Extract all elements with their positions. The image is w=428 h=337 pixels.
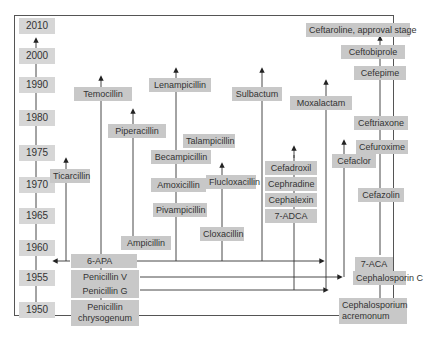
cefepime-box: Cefepime (354, 66, 406, 80)
penicillin-v-box: Penicillin V (71, 270, 139, 284)
penicillin-chrysogenum-box: Penicillin chrysogenum (71, 300, 139, 326)
cephradine-box: Cephradine (265, 177, 317, 191)
ceftaroline-box: Ceftaroline, approval stage (306, 23, 410, 37)
piperacillin-box: Piperacillin (108, 124, 166, 138)
year-1965: 1965 (19, 208, 55, 224)
year-1975: 1975 (19, 145, 55, 161)
six-apa-box: 6-APA (71, 254, 137, 268)
year-1990: 1990 (19, 77, 55, 93)
ceftriaxone-box: Ceftriaxone (354, 116, 408, 130)
cefuroxime-box: Cefuroxime (356, 140, 408, 154)
amoxicillin-box: Amoxicillin (151, 178, 206, 192)
year-1955: 1955 (19, 270, 55, 286)
talampicillin-box: Talampicillin (183, 134, 235, 148)
moxalactam-box: Moxalactam (290, 96, 352, 110)
year-1980: 1980 (19, 110, 55, 126)
year-2000: 2000 (19, 48, 55, 64)
cefazolin-box: Cefazolin (358, 188, 404, 202)
seven-adca-box: 7-ADCA (265, 209, 317, 223)
cloxacillin-box: Cloxacillin (200, 227, 244, 241)
sulbactum-box: Sulbactum (232, 87, 282, 101)
ampicillin-box: Ampicillin (121, 236, 171, 250)
penicillin-g-box: Penicillin G (71, 284, 139, 298)
source-line-2: chrysogenum (78, 313, 132, 323)
ceftobiprole-box: Ceftobiprole (341, 45, 405, 59)
cephalosporin-c-box: Cephalosporin C (353, 271, 417, 285)
year-1960: 1960 (19, 240, 55, 256)
becampicillin-box: Becampicillin (151, 150, 211, 164)
temocillin-box: Temocillin (74, 87, 132, 101)
ceph-source-line-2: acremonum (342, 311, 390, 321)
seven-aca-box: 7-ACA (355, 257, 393, 271)
pivampicillin-box: Pivampicillin (153, 203, 207, 217)
source-line-1: Penicillin (87, 302, 123, 312)
lenampicillin-box: Lenampicillin (149, 78, 211, 92)
ticarcillin-box: Ticarcillin (50, 169, 90, 183)
year-2010: 2010 (19, 18, 55, 34)
flucloxacillin-box: Flucloxacillin (206, 175, 256, 189)
cefaclor-box: Cefaclor (332, 154, 376, 168)
ceph-source-line-1: Cephalosporium (342, 300, 408, 310)
cephalexin-box: Cephalexin (265, 193, 317, 207)
cefadroxil-box: Cefadroxil (265, 161, 317, 175)
cephalosporium-acremonum-box: Cephalosporium acremonum (339, 298, 407, 324)
year-1950: 1950 (19, 302, 55, 318)
